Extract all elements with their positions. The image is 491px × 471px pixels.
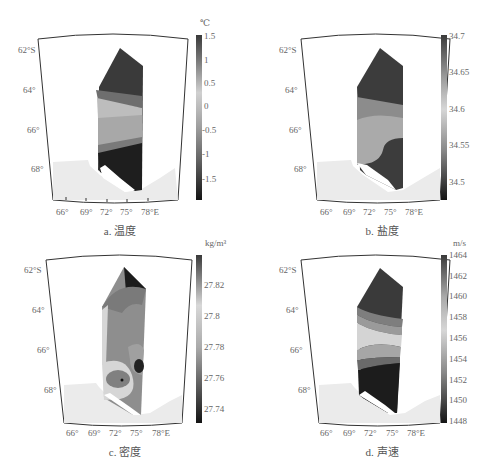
cb-tick: 1456 [449, 333, 467, 343]
y-tick: 64° [286, 305, 299, 315]
x-tick: 69° [343, 207, 356, 217]
y-tick: 62°S [18, 45, 36, 55]
cb-tick: 34.6 [449, 104, 465, 114]
y-tick: 68° [31, 164, 44, 174]
y-tick: 68° [44, 385, 57, 395]
x-tick: 69° [343, 428, 356, 438]
x-tick: 66° [56, 207, 69, 217]
y-tick: 62°S [24, 265, 42, 275]
x-tick: 78°E [407, 428, 425, 438]
panel-d-sound-speed: m/s 1464 1462 1460 1458 1456 1454 1452 1… [245, 235, 490, 470]
x-tick: 66° [320, 428, 333, 438]
cb-tick: 27.78 [204, 342, 224, 352]
y-tick: 62°S [279, 45, 297, 55]
x-tick: 78°E [405, 207, 423, 217]
y-tick: 68° [298, 385, 311, 395]
y-tick: 66° [27, 125, 40, 135]
y-tick: 62°S [279, 265, 297, 275]
cb-tick: 1460 [449, 291, 467, 301]
cb-tick: 0.5 [204, 78, 215, 88]
colorbar-c [196, 255, 202, 423]
y-tick: 66° [290, 345, 303, 355]
x-tick: 72° [100, 207, 113, 217]
y-tick: 64° [285, 85, 298, 95]
x-tick: 78°E [141, 207, 159, 217]
x-tick: 75° [120, 207, 133, 217]
cb-tick: 1448 [449, 416, 467, 426]
colorbar-d [441, 255, 447, 423]
y-tick: 64° [32, 305, 45, 315]
cb-tick: 27.8 [204, 311, 220, 321]
caption-d: d. 声速 [307, 443, 457, 459]
cb-tick: 27.76 [204, 373, 224, 383]
y-tick: 66° [289, 125, 302, 135]
y-tick: 64° [23, 85, 36, 95]
cb-tick: 1.5 [204, 31, 215, 41]
cb-tick: 27.82 [204, 280, 224, 290]
x-tick: 75° [384, 207, 397, 217]
cb-tick: -0.5 [202, 125, 216, 135]
caption-c: c. 密度 [50, 443, 200, 459]
y-tick: 68° [294, 164, 307, 174]
colorbar-unit-d: m/s [453, 238, 466, 248]
x-tick: 66° [320, 207, 333, 217]
cb-tick: 1450 [449, 395, 467, 405]
colorbar-b [441, 35, 447, 200]
x-tick: 78°E [152, 428, 170, 438]
cb-tick: 34.7 [449, 31, 465, 41]
cb-tick: 1464 [449, 250, 467, 260]
colorbar-unit-a: ℃ [200, 18, 210, 28]
x-tick: 72° [364, 428, 377, 438]
y-tick: 66° [37, 345, 50, 355]
cb-tick: 34.5 [449, 177, 465, 187]
cb-tick: 0 [204, 101, 209, 111]
cb-tick: 1452 [449, 375, 467, 385]
cb-tick: -1 [202, 149, 210, 159]
cb-tick: 34.65 [449, 67, 469, 77]
panel-b-salinity: 34.7 34.65 34.6 34.55 34.5 62°S 64° 66° … [245, 0, 490, 235]
x-tick: 75° [130, 428, 143, 438]
x-tick: 72° [363, 207, 376, 217]
cb-tick: -1.5 [202, 174, 216, 184]
cb-tick: 34.55 [449, 140, 469, 150]
x-tick: 75° [386, 428, 399, 438]
x-tick: 69° [88, 428, 101, 438]
cb-tick: 1454 [449, 354, 467, 364]
panel-a-temperature: ℃ 1.5 1 0.5 0 -0.5 -1 -1.5 62°S 64° 66° … [0, 0, 245, 235]
panel-c-density: kg/m³ 27.82 27.8 27.78 27.76 27.74 62°S … [0, 235, 245, 470]
cb-tick: 27.74 [204, 404, 224, 414]
cb-tick: 1 [204, 55, 209, 65]
colorbar-unit-c: kg/m³ [205, 238, 226, 248]
x-tick: 72° [109, 428, 122, 438]
cb-tick: 1462 [449, 271, 467, 281]
x-tick: 69° [80, 207, 93, 217]
cb-tick: 1458 [449, 312, 467, 322]
x-tick: 66° [66, 428, 79, 438]
